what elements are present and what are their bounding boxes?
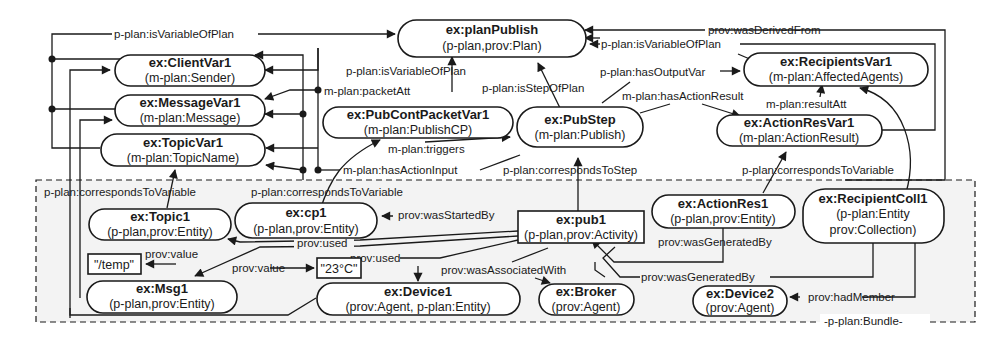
edge-label-wasAssociatedWith: prov:wasAssociatedWith xyxy=(441,264,566,276)
node-topic1[interactable]: ex:Topic1 (p-plan,prov:Entity) xyxy=(89,209,231,240)
edge-label-resultAtt: m-plan:resultAtt xyxy=(766,98,847,110)
node-device2[interactable]: ex:Device2 (prov:Agent) xyxy=(693,286,787,316)
node-subtitle: (p-plan:Entity xyxy=(836,207,910,221)
edge-label-isVariableOfPlan: p-plan:isVariableOfPlan xyxy=(114,28,234,40)
node-title: ex:ClientVar1 xyxy=(149,55,231,70)
node-title: ex:ActionRes1 xyxy=(678,196,768,211)
node-title: ex:planPublish xyxy=(446,22,539,37)
node-cp1[interactable]: ex:cp1 (p-plan,prov:Entity) xyxy=(235,203,377,238)
edge-label-packetAtt: m-plan:packetAtt xyxy=(324,85,411,97)
node-pubContPacketVar[interactable]: ex:PubContPacketVar1 (m-plan:PublishCP) xyxy=(323,107,513,138)
edge-label-used-1: prov:used xyxy=(297,237,348,249)
edge-label-wasStartedBy: prov:wasStartedBy xyxy=(398,209,495,221)
edge-label-isVariableOfPlan-right: p-plan:isVariableOfPlan xyxy=(601,38,721,50)
node-pubStep[interactable]: ex:PubStep (m-plan:Publish) xyxy=(517,107,643,147)
node-subtitle: (p-plan,prov:Entity) xyxy=(109,297,215,311)
node-subtitle: (prov:Agent) xyxy=(706,301,775,315)
node-subtitle: (m-plan:PublishCP) xyxy=(364,123,472,137)
edge-label-triggers: m-plan:triggers xyxy=(388,143,465,155)
edge-label-correspondsToStep: p-plan:correspondsToStep xyxy=(503,164,637,176)
node-pub1[interactable]: ex:pub1 (p-plan,prov:Activity) xyxy=(518,211,644,243)
node-subtitle: (prov:Agent) xyxy=(552,300,621,314)
node-subtitle: (p-plan,prov:Entity) xyxy=(253,222,359,236)
edge-label-hasActionInput: m-plan:hasActionInput xyxy=(343,164,458,176)
literal-value: "23°C" xyxy=(321,262,358,276)
node-subtitle: (p-plan,prov:Entity) xyxy=(107,225,213,239)
edge-label-wasGeneratedBy-1: prov:wasGeneratedBy xyxy=(658,236,772,248)
node-title: ex:pub1 xyxy=(556,212,606,227)
edge-label-correspondsToVariable-left: p-plan:correspondsToVariable xyxy=(44,186,196,198)
node-recipientsVar[interactable]: ex:RecipientsVar1 (m-plan:AffectedAgents… xyxy=(744,53,928,86)
literal-value: "/temp" xyxy=(94,258,134,272)
node-subtitle-2: prov:Collection) xyxy=(830,223,917,237)
node-subtitle: (p-plan,prov:Entity) xyxy=(670,212,776,226)
provenance-diagram: -p-plan:Bundle- p-plan:isVariableOfPlan … xyxy=(0,0,986,344)
node-title: ex:PubStep xyxy=(544,112,616,127)
edge-label-hasActionResult: m-plan:hasActionResult xyxy=(622,90,744,102)
node-title: ex:Broker xyxy=(556,284,617,299)
node-messageVar[interactable]: ex:MessageVar1 (m-plan:Message) xyxy=(115,95,265,126)
node-subtitle: (m-plan:AffectedAgents) xyxy=(769,70,904,84)
node-title: ex:Topic1 xyxy=(130,209,190,224)
node-title: ex:RecipientColl1 xyxy=(818,191,927,206)
edge-label-correspondsToVariable-right: p-plan:correspondsToVariable xyxy=(742,164,894,176)
edge-label-wasDerivedFrom: prov:wasDerivedFrom xyxy=(708,24,820,36)
edge-label-isVariableOfPlan-mid: p-plan:isVariableOfPlan xyxy=(346,65,466,77)
node-actionResVar[interactable]: ex:ActionResVar1 (m-plan:ActionResult) xyxy=(717,115,882,146)
node-subtitle: (m-plan:Publish) xyxy=(534,128,625,142)
node-title: ex:TopicVar1 xyxy=(143,135,223,150)
node-title: ex:Msg1 xyxy=(136,281,188,296)
node-title: ex:RecipientsVar1 xyxy=(780,54,892,69)
edge-label-correspondsToVariable-cp1: p-plan:correspondsToVariable xyxy=(251,186,403,198)
node-topicVar[interactable]: ex:TopicVar1 (m-plan:TopicName) xyxy=(101,134,265,166)
node-temp-value[interactable]: "/temp" xyxy=(88,254,141,274)
node-title: ex:MessageVar1 xyxy=(139,95,240,110)
edge-label-hasOutputVar: p-plan:hasOutputVar xyxy=(600,66,705,78)
node-actionRes1[interactable]: ex:ActionRes1 (p-plan,prov:Entity) xyxy=(652,195,795,228)
edge-label-hadMember: prov:hadMember xyxy=(808,291,895,303)
node-clientVar[interactable]: ex:ClientVar1 (m-plan:Sender) xyxy=(115,55,265,86)
node-subtitle: (p-plan,prov:Activity) xyxy=(524,228,638,242)
node-subtitle: (m-plan:ActionResult) xyxy=(739,131,859,145)
edge-line xyxy=(52,34,112,57)
bundle-label: -p-plan:Bundle- xyxy=(824,315,903,327)
node-subtitle: (m-plan:Message) xyxy=(140,111,241,125)
edge-label-isStepOfPlan: p-plan:isStepOfPlan xyxy=(482,82,584,94)
node-subtitle: (m-plan:TopicName) xyxy=(127,151,240,165)
node-planPublish[interactable]: ex:planPublish (p-plan,prov:Plan) xyxy=(398,20,586,57)
node-title: ex:ActionResVar1 xyxy=(744,115,855,130)
edge-label-value-1: prov:value xyxy=(145,248,198,260)
node-title: ex:Device2 xyxy=(706,286,774,301)
node-subtitle: (prov:Agent, p-plan:Entity) xyxy=(345,300,490,314)
node-msg1[interactable]: ex:Msg1 (p-plan,prov:Entity) xyxy=(87,281,237,313)
node-23c-value[interactable]: "23°C" xyxy=(317,258,361,278)
node-title: ex:cp1 xyxy=(285,205,326,220)
node-title: ex:PubContPacketVar1 xyxy=(347,107,489,122)
node-subtitle: (p-plan,prov:Plan) xyxy=(442,39,541,53)
node-subtitle: (m-plan:Sender) xyxy=(145,71,235,85)
node-device1[interactable]: ex:Device1 (prov:Agent, p-plan:Entity) xyxy=(317,283,520,315)
node-broker[interactable]: ex:Broker (prov:Agent) xyxy=(539,284,634,315)
edge-label-value-2: prov:value xyxy=(232,262,285,274)
edge-label-wasGeneratedBy-2: prov:wasGeneratedBy xyxy=(641,271,755,283)
node-title: ex:Device1 xyxy=(384,284,452,299)
node-recipientColl1[interactable]: ex:RecipientColl1 (p-plan:Entity prov:Co… xyxy=(803,189,944,243)
